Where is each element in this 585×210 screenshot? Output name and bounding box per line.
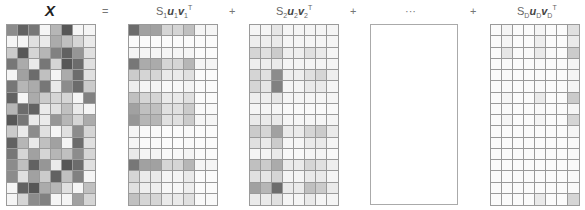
matrix-cell <box>40 81 51 92</box>
matrix-cell <box>84 48 95 59</box>
matrix-cell <box>272 194 283 205</box>
matrix-cell <box>162 138 173 149</box>
matrix-cell <box>305 115 316 126</box>
matrix-cell <box>294 70 305 81</box>
matrix-cell <box>546 59 557 70</box>
matrix-cell <box>173 115 184 126</box>
matrix-cell <box>305 138 316 149</box>
matrix-cell <box>140 160 151 171</box>
matrix-cell <box>40 104 51 115</box>
matrix-cell <box>73 149 84 160</box>
matrix-cell <box>40 70 51 81</box>
matrix-cell <box>524 36 535 47</box>
matrix-cell <box>524 81 535 92</box>
matrix-cell <box>195 81 206 92</box>
matrix-cell <box>250 70 261 81</box>
matrix-cell <box>546 160 557 171</box>
matrix-cell <box>40 48 51 59</box>
matrix-cell <box>491 104 502 115</box>
matrix-cell <box>173 48 184 59</box>
matrix-cell <box>568 160 579 171</box>
matrix-cell <box>129 171 140 182</box>
matrix-cell <box>327 93 338 104</box>
matrix-cell <box>568 115 579 126</box>
matrix-cell <box>491 160 502 171</box>
matrix-cell <box>272 171 283 182</box>
matrix-cell <box>129 93 140 104</box>
matrix-cell <box>51 81 62 92</box>
matrix-cell <box>206 194 217 205</box>
matrix-cell <box>151 104 162 115</box>
v-subscript: 1 <box>184 12 188 19</box>
matrix-cell <box>535 183 546 194</box>
matrix-cell <box>568 36 579 47</box>
matrix-cell <box>62 70 73 81</box>
matrix-cell <box>250 93 261 104</box>
matrix-cell <box>524 104 535 115</box>
matrix-cell <box>283 194 294 205</box>
matrix-cell <box>18 138 29 149</box>
matrix-cell <box>316 25 327 36</box>
matrix-cell <box>173 70 184 81</box>
matrix-cell <box>73 171 84 182</box>
matrix-cell <box>195 115 206 126</box>
matrix-cell <box>283 81 294 92</box>
matrix-cell <box>535 160 546 171</box>
matrix-cell <box>51 104 62 115</box>
matrix-cell <box>18 171 29 182</box>
matrix-cell <box>195 70 206 81</box>
matrix-cell <box>502 93 513 104</box>
matrix-cell <box>272 126 283 137</box>
matrix-cell <box>62 160 73 171</box>
matrix-cell <box>62 183 73 194</box>
matrix-cell <box>316 160 327 171</box>
matrix-cell <box>524 70 535 81</box>
matrix-cell <box>535 48 546 59</box>
matrix-cell <box>40 93 51 104</box>
matrix-cell <box>557 36 568 47</box>
matrix-cell <box>18 25 29 36</box>
matrix-cell <box>557 81 568 92</box>
matrix-cell <box>195 149 206 160</box>
matrix-cell <box>513 126 524 137</box>
matrix-cell <box>491 194 502 205</box>
matrix-cell <box>7 126 18 137</box>
matrix-cell <box>250 59 261 70</box>
matrix-cell <box>316 36 327 47</box>
matrix-cell <box>513 149 524 160</box>
matrix-cell <box>62 194 73 205</box>
matrix-cell <box>546 194 557 205</box>
matrix-cell <box>84 194 95 205</box>
matrix-cell <box>140 138 151 149</box>
ellipsis: ··· <box>405 5 416 17</box>
matrix-cell <box>250 138 261 149</box>
matrix-cell <box>261 126 272 137</box>
matrix-cell <box>524 171 535 182</box>
matrix-cell <box>184 115 195 126</box>
matrix-cell <box>272 160 283 171</box>
matrix-cell <box>272 149 283 160</box>
matrix-cell <box>140 48 151 59</box>
matrix-cell <box>250 104 261 115</box>
matrix-cell <box>195 93 206 104</box>
matrix-cell <box>491 93 502 104</box>
matrix-cell <box>524 59 535 70</box>
matrix-cell <box>7 138 18 149</box>
matrix-cell <box>184 149 195 160</box>
matrix-cell <box>294 149 305 160</box>
matrix-cell <box>316 138 327 149</box>
matrix-cell <box>568 104 579 115</box>
matrix-cell <box>84 59 95 70</box>
matrix-cell <box>272 115 283 126</box>
matrix-cell <box>524 25 535 36</box>
matrix-cell <box>51 126 62 137</box>
matrix-cell <box>173 36 184 47</box>
matrix-cell <box>195 126 206 137</box>
matrix-cell <box>206 81 217 92</box>
matrix-x <box>6 24 96 206</box>
matrix-cell <box>524 160 535 171</box>
matrix-cell <box>513 160 524 171</box>
matrix-cell <box>62 25 73 36</box>
matrix-cell <box>535 70 546 81</box>
matrix-cell <box>195 36 206 47</box>
